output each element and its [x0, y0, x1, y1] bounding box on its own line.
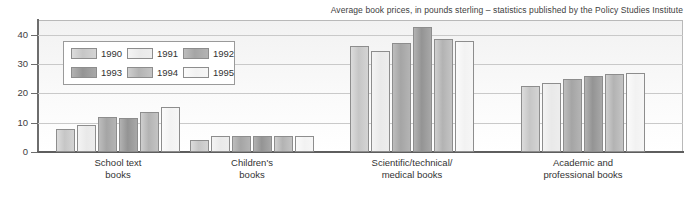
bar-1995-1 — [161, 107, 180, 152]
category-label-3: Scientific/technical/medical books — [332, 157, 492, 180]
bar-1990-2 — [190, 140, 209, 152]
bar-1992-1 — [98, 117, 117, 152]
category-label-2: Children'sbooks — [172, 157, 332, 180]
legend-swatch-1994 — [127, 67, 153, 78]
legend-label: 1992 — [213, 48, 234, 59]
category-label-line: Children's — [172, 157, 332, 169]
category-label-4: Academic andprofessional books — [503, 157, 663, 180]
bar-1990-3 — [350, 46, 369, 152]
legend-label: 1993 — [101, 67, 122, 78]
bar-1992-3 — [392, 43, 411, 152]
bar-1993-1 — [119, 118, 138, 152]
bar-1991-1 — [77, 125, 96, 152]
y-tick-label-0: 0 — [0, 146, 28, 157]
bar-1995-2 — [295, 136, 314, 152]
legend-swatch-1990 — [71, 48, 97, 59]
category-label-line: Scientific/technical/ — [332, 157, 492, 169]
y-tick-label-20: 20 — [0, 87, 28, 98]
bar-1992-4 — [563, 79, 582, 152]
legend-label: 1994 — [157, 67, 178, 78]
bar-1991-2 — [211, 136, 230, 152]
bar-1990-1 — [56, 129, 75, 152]
bar-1994-3 — [434, 39, 453, 152]
y-tick-mark-10 — [31, 123, 38, 124]
legend-swatch-1995 — [183, 67, 209, 78]
bar-1994-4 — [605, 74, 624, 152]
bar-1995-4 — [626, 73, 645, 152]
legend-swatch-1991 — [127, 48, 153, 59]
bar-1994-1 — [140, 112, 159, 152]
bar-1991-4 — [542, 83, 561, 152]
legend-swatch-1992 — [183, 48, 209, 59]
bar-group-4 — [521, 20, 645, 152]
category-label-line: professional books — [503, 169, 663, 181]
y-tick-mark-20 — [31, 93, 38, 94]
legend-item-1991[interactable]: 1991 — [127, 48, 178, 59]
bar-group-3 — [350, 20, 474, 152]
y-tick-label-30: 30 — [0, 58, 28, 69]
legend-label: 1990 — [101, 48, 122, 59]
y-tick-mark-40 — [31, 35, 38, 36]
legend-swatch-1993 — [71, 67, 97, 78]
legend-item-1992[interactable]: 1992 — [183, 48, 234, 59]
legend-label: 1991 — [157, 48, 178, 59]
category-label-line: medical books — [332, 169, 492, 181]
bar-1990-4 — [521, 86, 540, 152]
y-tick-mark-0 — [31, 152, 38, 153]
bar-1992-2 — [232, 136, 251, 152]
y-tick-mark-30 — [31, 64, 38, 65]
category-label-line: Academic and — [503, 157, 663, 169]
bar-1993-4 — [584, 76, 603, 152]
legend-item-1990[interactable]: 1990 — [71, 48, 122, 59]
y-tick-label-40: 40 — [0, 29, 28, 40]
bar-1993-3 — [413, 27, 432, 152]
legend-item-1993[interactable]: 1993 — [71, 67, 122, 78]
bar-1991-3 — [371, 51, 390, 152]
bar-group-1 — [56, 20, 180, 152]
bar-1995-3 — [455, 41, 474, 152]
bar-group-2 — [190, 20, 314, 152]
bar-1993-2 — [253, 136, 272, 152]
legend-label: 1995 — [213, 67, 234, 78]
legend: 199019911992199319941995 — [63, 41, 235, 85]
y-tick-label-10: 10 — [0, 117, 28, 128]
chart-title: Average book prices, in pounds sterling … — [0, 5, 683, 15]
legend-item-1995[interactable]: 1995 — [183, 67, 234, 78]
category-label-line: books — [172, 169, 332, 181]
y-axis-line — [37, 19, 39, 153]
bar-1994-2 — [274, 136, 293, 152]
legend-item-1994[interactable]: 1994 — [127, 67, 178, 78]
